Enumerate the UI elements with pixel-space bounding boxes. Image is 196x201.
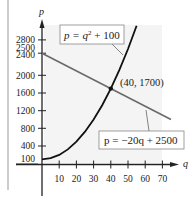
y-tick-100: 100 (21, 154, 36, 164)
x-tick-50: 50 (123, 174, 133, 184)
y-tick-1600: 1600 (16, 88, 35, 98)
x-axis-arrow-icon (170, 162, 179, 167)
x-tick-60: 60 (140, 174, 150, 184)
x-axis-label: q (183, 158, 188, 169)
intersection-label: (40, 1700) (120, 77, 164, 89)
y-tick-800: 800 (21, 124, 36, 134)
y-tick-2400: 2400 (16, 50, 35, 60)
y-axis-arrow-icon (40, 19, 45, 28)
y-tick-400: 400 (21, 141, 36, 151)
svg-text:p = −20q + 2500: p = −20q + 2500 (104, 134, 178, 146)
y-tick-1200: 1200 (16, 106, 35, 116)
y-tick-2000: 2000 (16, 71, 35, 81)
x-tick-70: 70 (158, 174, 168, 184)
intersection-point (109, 86, 113, 90)
x-tick-40: 40 (106, 174, 116, 184)
y-axis-label: p (38, 6, 44, 17)
x-tick-10: 10 (54, 174, 64, 184)
y-axis: p 2800 2500 2400 2000 1600 1200 800 400 … (16, 6, 46, 196)
x-tick-30: 30 (89, 174, 99, 184)
x-tick-20: 20 (72, 174, 82, 184)
svg-text:p = q2 + 100: p = q2 + 100 (63, 29, 120, 41)
supply-demand-chart: p 2800 2500 2400 2000 1600 1200 800 400 … (0, 0, 196, 201)
